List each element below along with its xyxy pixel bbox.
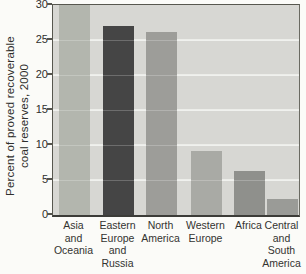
plot-area	[52, 4, 300, 217]
bar-eastern-europe-and-russia	[103, 26, 134, 215]
y-tick-label-20: 20	[14, 68, 48, 81]
gridline-overlay-10	[53, 145, 299, 146]
x-category-label-line: Central	[250, 219, 306, 232]
x-category-label-line: South	[250, 244, 306, 257]
y-tick-label-10: 10	[14, 138, 48, 151]
gridline-overlay-5	[53, 180, 299, 181]
y-tick-label-15: 15	[14, 103, 48, 116]
x-category-label-line: and	[250, 232, 306, 245]
y-tick-mark-15	[47, 108, 52, 110]
bar-central-and-south-america	[267, 199, 298, 215]
y-tick-mark-30	[47, 3, 52, 5]
y-tick-mark-10	[47, 143, 52, 145]
x-category-label-line: Russia	[86, 257, 150, 270]
gridline-overlay-20	[53, 75, 299, 76]
y-tick-mark-25	[47, 38, 52, 40]
bar-africa	[234, 171, 265, 215]
y-tick-mark-5	[47, 178, 52, 180]
x-category-label-line: Europe	[174, 232, 238, 245]
x-category-label-line: and	[86, 244, 150, 257]
y-tick-label-5: 5	[14, 173, 48, 186]
y-tick-mark-0	[47, 213, 52, 215]
y-tick-label-25: 25	[14, 33, 48, 46]
x-category-label-line: America	[250, 257, 306, 270]
bar-western-europe	[191, 151, 222, 215]
x-category-label-central-and-south-america: CentralandSouthAmerica	[250, 219, 306, 269]
gridline-overlay-25	[53, 40, 299, 41]
gridline-overlay-15	[53, 110, 299, 111]
y-tick-mark-20	[47, 73, 52, 75]
y-tick-label-30: 30	[14, 0, 48, 11]
coal-reserves-bar-chart: Percent of proved recoverable coal reser…	[0, 0, 305, 274]
bar-north-america	[146, 32, 177, 215]
